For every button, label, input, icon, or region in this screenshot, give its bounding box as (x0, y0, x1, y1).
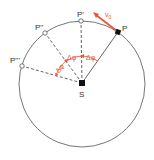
point-P1 (79, 19, 83, 23)
point-P3 (20, 64, 24, 68)
label-P: P (122, 24, 127, 33)
center-S (79, 80, 85, 86)
radius-line-P3 (22, 66, 82, 83)
label-P1: P' (77, 10, 84, 19)
radius-line-P2 (45, 33, 82, 83)
velocity-label: v0 (105, 11, 112, 20)
angle-label-3: Δφ (54, 62, 66, 75)
circular-motion-diagram: Δφ Δφ Δφ v0 P P' P'' P''' S (0, 0, 154, 160)
point-P2 (43, 31, 47, 35)
label-S: S (79, 90, 84, 99)
angle-label-1: Δφ (86, 54, 96, 62)
label-P2: P'' (35, 23, 44, 32)
label-P3: P''' (10, 56, 20, 65)
angle-label-2: Δφ (67, 54, 77, 62)
radius-line-P1 (81, 21, 82, 83)
